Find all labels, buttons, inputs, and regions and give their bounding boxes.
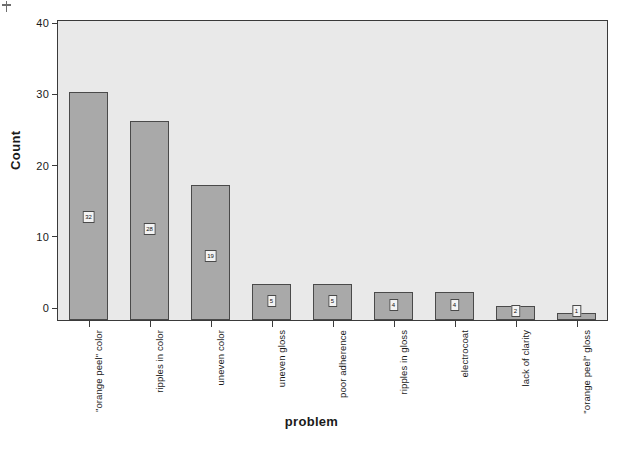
bar[interactable]: 1 <box>557 313 596 320</box>
bar-value-label: 5 <box>328 295 337 307</box>
bar-value-label: 5 <box>267 295 276 307</box>
y-axis-title: Count <box>8 130 23 170</box>
bar-value-label: 19 <box>204 250 217 262</box>
bar[interactable]: 4 <box>435 292 474 320</box>
bar-value-label: 32 <box>82 211 95 223</box>
y-axis-tick: 30 <box>36 88 58 100</box>
plot-area: 010203040322819554421 <box>58 21 607 320</box>
x-axis-tick-label: poor adherence <box>337 330 348 398</box>
x-axis-tick-mark <box>394 321 395 327</box>
x-axis-tick-mark <box>516 321 517 327</box>
x-axis-tick-label: "orange peel" color <box>93 330 104 412</box>
x-axis-tick-label: ripples in color <box>154 330 165 393</box>
y-axis-tick-label: 20 <box>36 160 49 172</box>
bar-chart: 010203040322819554421 <box>57 20 608 321</box>
x-axis-tick-label: uneven color <box>215 330 226 386</box>
y-axis-tick-mark <box>52 23 58 24</box>
y-axis-tick-label: 30 <box>36 88 49 100</box>
bar-value-label: 4 <box>389 299 398 311</box>
y-axis-tick: 0 <box>43 302 58 314</box>
x-axis-tick-mark <box>150 321 151 327</box>
bar-value-label: 28 <box>143 223 156 235</box>
x-axis-tick-label: ripples in gloss <box>398 330 409 394</box>
x-axis-tick-mark <box>333 321 334 327</box>
bar[interactable]: 28 <box>130 121 169 320</box>
y-axis-tick-mark <box>52 94 58 95</box>
bar[interactable]: 5 <box>252 284 291 320</box>
x-axis-tick-mark <box>455 321 456 327</box>
y-axis-tick-label: 10 <box>36 231 49 243</box>
y-axis-tick-mark <box>52 236 58 237</box>
bar[interactable]: 32 <box>69 92 108 320</box>
x-axis-tick-mark <box>272 321 273 327</box>
bar-value-label: 2 <box>511 305 520 317</box>
y-axis-tick: 10 <box>36 231 58 243</box>
x-axis-tick-label: "orange peel" gloss <box>581 330 592 414</box>
bar[interactable]: 19 <box>191 185 230 320</box>
y-axis-tick-mark <box>52 165 58 166</box>
y-axis-tick-label: 0 <box>43 302 49 314</box>
x-axis-tick-label: uneven gloss <box>276 330 287 387</box>
bar-value-label: 4 <box>450 299 459 311</box>
y-axis-tick-label: 40 <box>36 17 49 29</box>
bar[interactable]: 2 <box>496 306 535 320</box>
x-axis-tick-mark <box>577 321 578 327</box>
x-axis-tick-label: electrocoat <box>459 330 470 378</box>
y-axis-tick: 40 <box>36 17 58 29</box>
bar[interactable]: 5 <box>313 284 352 320</box>
bar[interactable]: 4 <box>374 292 413 320</box>
y-axis-tick-mark <box>52 308 58 309</box>
scan-artifact <box>2 1 11 12</box>
x-axis-title: problem <box>0 414 623 429</box>
x-axis-tick-mark <box>89 321 90 327</box>
x-axis-tick-mark <box>211 321 212 327</box>
x-axis-tick-label: lack of clarity <box>520 330 531 386</box>
y-axis-tick: 20 <box>36 160 58 172</box>
bar-value-label: 1 <box>572 305 581 317</box>
